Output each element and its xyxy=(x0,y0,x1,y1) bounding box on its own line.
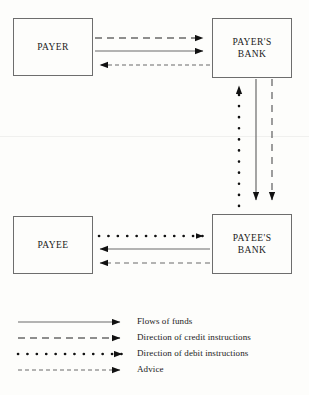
legend-label-advice: Advice xyxy=(137,364,164,374)
diagram-canvas: PAYER PAYER'S BANK PAYEE PAYEE'S BANK xyxy=(0,0,309,395)
legend-label-flows-of-funds: Flows of funds xyxy=(137,316,192,326)
legend: Flows of funds Direction of credit instr… xyxy=(0,310,309,385)
legend-label-debit-instructions: Direction of debit instructions xyxy=(137,348,248,358)
connector-layer xyxy=(0,0,309,310)
legend-label-credit-instructions: Direction of credit instructions xyxy=(137,332,251,342)
